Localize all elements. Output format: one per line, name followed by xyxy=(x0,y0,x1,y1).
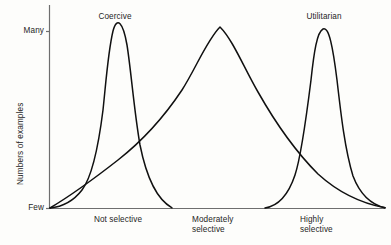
curve-coercive xyxy=(50,23,172,208)
x-axis-label-not-selective: Not selective xyxy=(94,215,142,225)
y-axis-title: Numbers of examples xyxy=(16,0,25,185)
x-axis-label-moderately-selective: Moderately selective xyxy=(192,215,254,235)
x-axis-label-moderately-line2: selective xyxy=(192,225,225,234)
curve-utilitarian xyxy=(265,29,385,208)
curve-label-coercive: Coercive xyxy=(98,12,131,22)
chart-figure: Many Few Numbers of examples Not selecti… xyxy=(0,0,391,245)
curve-moderately-selective xyxy=(50,27,385,208)
y-axis-label-few: Few xyxy=(28,203,44,213)
x-axis-label-highly-line2: selective xyxy=(300,225,333,234)
curve-label-utilitarian: Utilitarian xyxy=(306,12,341,22)
y-axis-label-many: Many xyxy=(24,26,44,36)
x-axis-label-highly-selective: Highly selective xyxy=(300,215,362,235)
chart-plot-area xyxy=(0,0,391,245)
x-axis-label-highly-line1: Highly xyxy=(300,215,323,224)
x-axis-label-moderately-line1: Moderately xyxy=(192,215,234,224)
